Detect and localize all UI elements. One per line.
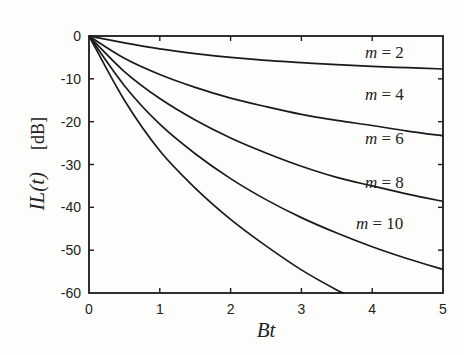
ticks-group <box>89 36 443 293</box>
series-label-m2: m = 2 <box>365 43 404 62</box>
y-tick-label: -50 <box>61 242 81 258</box>
series-label-m8: m = 8 <box>365 173 404 192</box>
series-label-m4: m = 4 <box>365 85 404 104</box>
plot-frame <box>89 36 443 293</box>
y-tick-label: -10 <box>61 71 81 87</box>
x-tick-label: 3 <box>298 301 306 317</box>
y-tick-label: -30 <box>61 157 81 173</box>
chart: 0123450-10-20-30-40-50-60 m = 2m = 4m = … <box>0 0 464 355</box>
y-tick-label: -40 <box>61 199 81 215</box>
curve-labels-group: m = 2m = 4m = 6m = 8m = 10 <box>356 43 404 233</box>
y-tick-label: -20 <box>61 114 81 130</box>
x-tick-label: 4 <box>368 301 376 317</box>
curves-group <box>89 36 443 293</box>
y-tick-label: -60 <box>61 285 81 301</box>
x-axis-title: Bt <box>257 318 277 342</box>
x-tick-label: 2 <box>227 301 235 317</box>
y-axis-unit: [dB] <box>28 117 48 150</box>
x-tick-label: 1 <box>156 301 164 317</box>
x-tick-label: 5 <box>439 301 447 317</box>
y-tick-label: 0 <box>73 28 81 44</box>
series-label-m6: m = 6 <box>365 129 404 148</box>
series-label-m10: m = 10 <box>356 214 403 233</box>
y-axis-title: IL(t) <box>25 172 49 212</box>
x-tick-label: 0 <box>85 301 93 317</box>
